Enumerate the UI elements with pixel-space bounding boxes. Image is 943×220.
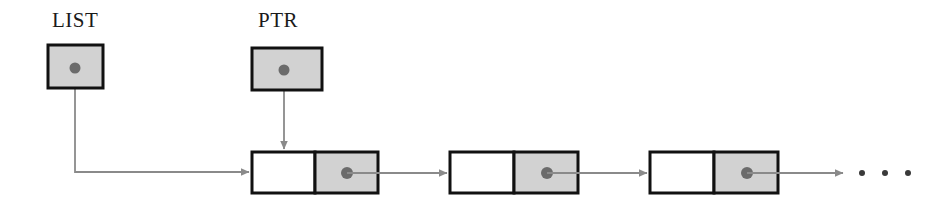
ptr-variable-box (252, 48, 322, 90)
ptr-variable-label: PTR (258, 8, 298, 33)
list-pointer-dot (70, 63, 81, 74)
node-1-data-cell (252, 152, 315, 193)
ellipsis-dot-2 (882, 170, 888, 176)
diagram-canvas (0, 0, 943, 220)
continuation-ellipsis (859, 170, 911, 176)
linked-list-diagram: LIST PTR (0, 0, 943, 220)
ellipsis-dot-1 (859, 170, 865, 176)
list-variable-label: LIST (52, 8, 98, 33)
node-3-data-cell (650, 152, 714, 193)
node-2-data-cell (450, 152, 514, 193)
ellipsis-dot-3 (905, 170, 911, 176)
list-variable-box (48, 45, 103, 88)
ptr-pointer-dot (279, 65, 290, 76)
